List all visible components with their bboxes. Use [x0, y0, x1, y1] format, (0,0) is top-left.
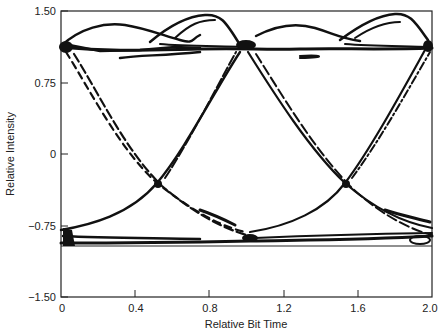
crossing-point [342, 180, 350, 188]
eye-traces [59, 14, 433, 246]
x-ticks [135, 290, 358, 297]
crossing-point [154, 180, 162, 188]
y-tick-label: −0.75 [28, 220, 56, 232]
plot-frame [61, 11, 432, 297]
x-tick-label: 1.2 [276, 302, 291, 314]
y-tick-label: 1.50 [35, 5, 56, 17]
x-tick-label: 2.0 [422, 302, 437, 314]
x-tick-label: 0.4 [128, 302, 143, 314]
y-tick-label: 0 [50, 148, 56, 160]
x-axis-title: Relative Bit Time [205, 318, 288, 330]
x-tick-label: 0 [59, 302, 65, 314]
x-tick-label: 0.8 [202, 302, 217, 314]
overshoot-arc-2 [256, 25, 360, 41]
y-axis-title: Relative Intensity [4, 112, 16, 196]
falling-edge-1-trace [66, 52, 245, 232]
rising-edge-2-trace [250, 50, 425, 232]
x-tick-label: 1.6 [350, 302, 365, 314]
y-tick-label: 0.75 [35, 77, 56, 89]
falling-edge-2-trace [248, 52, 432, 228]
y-tick-label: −1.50 [28, 291, 56, 303]
eye-diagram-chart: 1.50 0.75 0 −0.75 −1.50 0 0.4 0.8 1.2 1.… [0, 0, 446, 336]
